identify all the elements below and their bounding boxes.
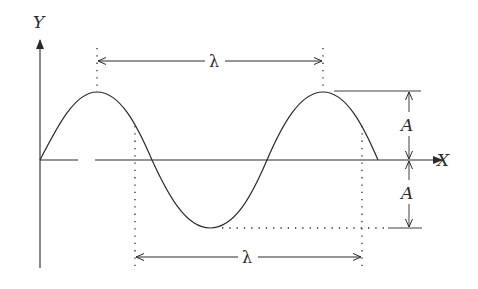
wave-diagram: Y X λ λ A A: [0, 0, 478, 289]
amplitude-bottom-label: A: [399, 183, 413, 203]
x-axis-label: X: [435, 150, 450, 170]
wavelength-bottom-label: λ: [242, 248, 252, 267]
wavelength-top-label: λ: [209, 52, 219, 71]
y-axis-label: Y: [33, 12, 46, 32]
amplitude-top-label: A: [399, 115, 413, 135]
